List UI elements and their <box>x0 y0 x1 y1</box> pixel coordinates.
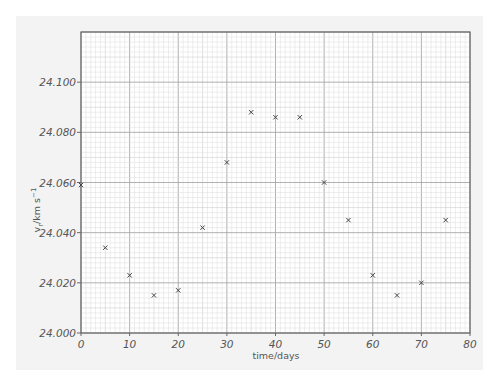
x-tick-label: 40 <box>269 338 283 350</box>
x-tick-label: 30 <box>220 338 234 350</box>
x-tick-label: 50 <box>317 338 331 350</box>
y-axis-title-unit: /km s <box>31 198 42 224</box>
y-tick-label: 24.060 <box>39 177 76 189</box>
y-tick-label: 24.000 <box>39 327 76 339</box>
y-tick-label: 24.020 <box>39 277 76 289</box>
x-tick-label: 70 <box>415 338 429 350</box>
x-tick-label: 80 <box>463 338 477 350</box>
y-tick-label: 24.100 <box>39 76 76 88</box>
y-tick-label: 24.040 <box>39 227 76 239</box>
y-tick-labels: 24.00024.02024.04024.06024.08024.100 <box>39 76 76 339</box>
x-tick-labels: 01020304050607080 <box>78 338 477 350</box>
x-tick-label: 10 <box>123 338 137 350</box>
x-tick-label: 0 <box>78 338 85 350</box>
scatter-chart: 01020304050607080 24.00024.02024.04024.0… <box>0 0 492 382</box>
y-axis-title-sup: −1 <box>30 188 38 198</box>
y-tick-label: 24.080 <box>39 126 76 138</box>
grid <box>81 32 470 333</box>
x-tick-label: 20 <box>172 338 186 350</box>
x-axis-title: time/days <box>252 350 299 361</box>
x-tick-label: 60 <box>366 338 380 350</box>
y-axis-title: vr/km s−1 <box>30 188 45 233</box>
